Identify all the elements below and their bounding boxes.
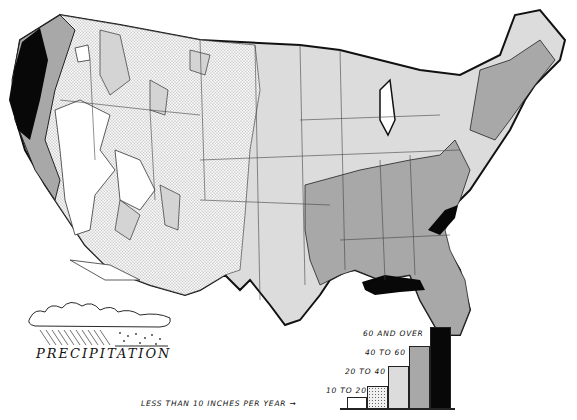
legend-label-10-to-20: 10 TO 20 [326, 386, 367, 395]
legend-label-20-to-40: 20 TO 40 [345, 367, 386, 376]
legend-label-60-and-over: 60 AND OVER [363, 329, 424, 338]
legend-bar-10-to-20 [367, 386, 388, 409]
legend-label-less-than-10: LESS THAN 10 INCHES PER YEAR → [141, 399, 297, 408]
arrow-right-icon: → [290, 399, 297, 408]
legend-bar-20-to-40 [388, 366, 409, 409]
cloud-rain-illustration [29, 302, 171, 346]
legend-bar-40-to-60 [409, 346, 430, 409]
legend-baseline [340, 408, 455, 410]
legend-label-40-to-60: 40 TO 60 [365, 348, 406, 357]
map-title: PRECIPITATION [36, 346, 171, 361]
legend-bar-60-and-over [430, 327, 451, 409]
